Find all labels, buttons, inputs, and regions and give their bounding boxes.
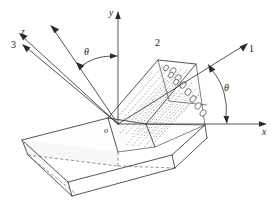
angle-arc-left-arrowhead-start — [76, 62, 84, 70]
angle-arc-right-arrowhead-end — [223, 116, 229, 124]
axis-2-group — [50, 25, 118, 124]
axis-label-y: y — [109, 9, 113, 19]
angle-arc-left-arrowhead-end — [110, 53, 118, 59]
axis-2-arrowhead — [50, 25, 59, 33]
theta-label-left: θ — [84, 47, 89, 57]
axis-1-arrowhead — [240, 43, 248, 51]
axis-label-3: 3 — [11, 40, 16, 50]
axis-3-arrowhead — [22, 44, 30, 52]
angle-arc-right-group — [208, 64, 229, 124]
axis-label-1: 1 — [249, 44, 254, 54]
axis-z-group — [19, 33, 118, 124]
axis-label-x: x — [262, 128, 266, 138]
axis-x-arrowhead — [259, 121, 267, 127]
upper-block-group — [108, 60, 207, 125]
angle-arc-left-group — [76, 53, 118, 70]
axis-y-arrowhead — [115, 11, 121, 19]
lamina-diagram-svg — [0, 0, 280, 214]
theta-label-right: θ — [224, 83, 229, 93]
origin-label: o — [104, 127, 108, 135]
axis-label-z: z — [21, 28, 25, 38]
axis-3-group — [22, 44, 118, 124]
figure-root: 2 z 3 y 1 x o θ θ — [0, 0, 280, 214]
axis-label-2: 2 — [155, 38, 160, 48]
lower-plate-group — [22, 118, 205, 166]
